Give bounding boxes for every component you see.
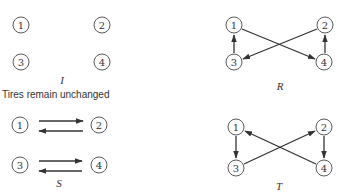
- node-label: 3: [18, 57, 24, 68]
- node-label: 4: [96, 160, 102, 171]
- node-t-1: 1: [228, 119, 244, 135]
- node-i-4: 4: [94, 54, 110, 70]
- panel-t: 1 2 3 4 T: [228, 119, 332, 192]
- node-s-2: 2: [91, 117, 107, 133]
- node-label: 2: [321, 122, 327, 133]
- node-i-3: 3: [13, 54, 29, 70]
- panel-label-i: I: [59, 74, 65, 86]
- node-label: 1: [233, 122, 239, 133]
- node-r-4: 4: [316, 54, 332, 70]
- panel-r: 1 2 3 4 R: [226, 17, 333, 92]
- node-label: 3: [231, 57, 237, 68]
- node-t-2: 2: [316, 119, 332, 135]
- node-label: 4: [321, 163, 327, 174]
- node-label: 2: [322, 20, 328, 31]
- node-r-2: 2: [317, 17, 333, 33]
- node-label: 1: [18, 20, 24, 31]
- tire-rotation-diagram: 1 2 3 4 I Tires remain unchanged 1 2: [0, 0, 346, 196]
- node-r-1: 1: [226, 17, 242, 33]
- node-label: 4: [99, 57, 105, 68]
- node-s-1: 1: [12, 117, 28, 133]
- panel-caption-i: Tires remain unchanged: [2, 89, 109, 100]
- node-s-3: 3: [12, 157, 28, 173]
- panel-label-s: S: [56, 177, 62, 189]
- node-i-1: 1: [13, 17, 29, 33]
- node-label: 2: [96, 120, 102, 131]
- node-t-3: 3: [228, 160, 244, 176]
- node-label: 3: [17, 160, 23, 171]
- node-s-4: 4: [91, 157, 107, 173]
- panel-label-r: R: [276, 80, 284, 92]
- node-label: 2: [99, 20, 105, 31]
- panel-i: 1 2 3 4 I Tires remain unchanged: [2, 17, 110, 100]
- node-r-3: 3: [226, 54, 242, 70]
- node-label: 1: [231, 20, 237, 31]
- node-i-2: 2: [94, 17, 110, 33]
- node-label: 4: [321, 57, 327, 68]
- node-label: 3: [233, 163, 239, 174]
- node-label: 1: [17, 120, 23, 131]
- panel-s: 1 2 3 4 S: [12, 117, 107, 189]
- panel-label-t: T: [276, 180, 283, 192]
- node-t-4: 4: [316, 160, 332, 176]
